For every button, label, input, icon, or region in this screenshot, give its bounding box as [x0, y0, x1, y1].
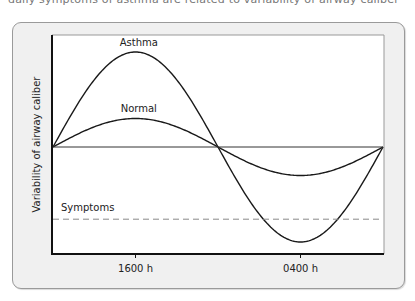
x-tick-label: 0400 h: [283, 263, 318, 274]
symptoms-label: Symptoms: [61, 202, 114, 213]
normal-label: Normal: [121, 103, 157, 114]
tick-layer: 1600 h0400 h: [118, 254, 318, 274]
x-tick-label: 1600 h: [118, 263, 153, 274]
y-axis-label: Variability of airway caliber: [31, 76, 42, 213]
chart: AsthmaNormal 1600 h0400 h Variability of…: [0, 0, 415, 301]
asthma-label: Asthma: [120, 37, 158, 48]
plot-area: [52, 35, 384, 254]
